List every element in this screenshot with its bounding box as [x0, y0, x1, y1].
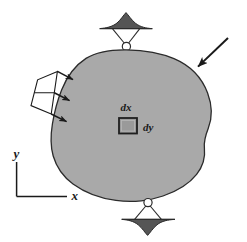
ground-valley-bottom-icon — [122, 219, 174, 235]
support-leg-top-left — [113, 29, 125, 43]
axis-x-label: x — [71, 188, 79, 203]
support-leg-top-right — [129, 29, 140, 43]
support-leg-bottom-left — [135, 206, 146, 219]
pin-circle-bottom-icon — [144, 199, 152, 207]
dx-label: dx — [121, 101, 133, 113]
diagram-svg: dx dy y x — [0, 0, 247, 242]
ground-mound-top-icon — [101, 13, 152, 29]
pin-support-top — [100, 13, 153, 51]
figure-canvas: dx dy y x — [0, 0, 247, 242]
concentrated-load-arrow — [198, 38, 228, 67]
support-leg-bottom-right — [150, 206, 161, 219]
pin-support-bottom — [122, 199, 176, 236]
axis-y-label: y — [12, 146, 20, 161]
concentrated-load-upper-right — [198, 38, 228, 67]
dy-label: dy — [143, 121, 154, 133]
